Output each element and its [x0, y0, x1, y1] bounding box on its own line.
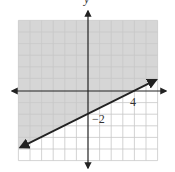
x-tick-label-4: 4: [130, 95, 136, 109]
inequality-graph: y 4 −2: [0, 0, 175, 172]
y-axis-label: y: [83, 0, 90, 6]
y-tick-label-neg2: −2: [92, 112, 105, 126]
